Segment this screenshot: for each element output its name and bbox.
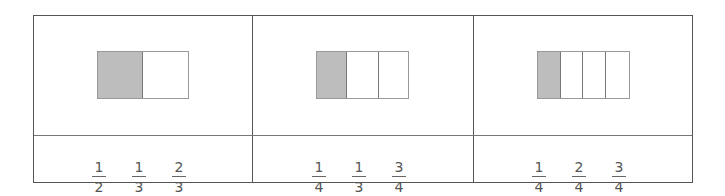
bar-segment (561, 52, 584, 98)
denominator: 4 (615, 180, 624, 194)
fraction-bar-thirds (316, 51, 409, 99)
fraction-option[interactable]: 1 4 (531, 160, 547, 194)
fraction-bar-quarters (537, 51, 630, 99)
numerator: 1 (315, 160, 324, 174)
fraction-line (312, 176, 326, 177)
fraction-options-3: 1 4 2 4 3 4 (531, 160, 651, 194)
numerator: 1 (535, 160, 544, 174)
numerator: 2 (175, 160, 184, 174)
fraction-table: 1 2 1 3 2 3 1 4 1 3 3 (33, 15, 693, 183)
column-divider (473, 16, 474, 182)
fraction-bar-halves (97, 51, 189, 99)
fraction-line (532, 176, 546, 177)
fraction-options-2: 1 4 1 3 3 4 (311, 160, 431, 194)
row-divider (34, 135, 692, 136)
fraction-option[interactable]: 1 2 (91, 160, 107, 194)
fraction-option[interactable]: 3 4 (391, 160, 407, 194)
fraction-option[interactable]: 1 3 (131, 160, 147, 194)
fraction-options-1: 1 2 1 3 2 3 (91, 160, 211, 194)
bar-segment-shaded (98, 52, 143, 98)
numerator: 3 (395, 160, 404, 174)
denominator: 4 (395, 180, 404, 194)
fraction-option[interactable]: 1 4 (311, 160, 327, 194)
fraction-line (612, 176, 626, 177)
bar-segment (143, 52, 188, 98)
column-divider (252, 16, 253, 182)
numerator: 3 (615, 160, 624, 174)
fraction-option[interactable]: 1 3 (351, 160, 367, 194)
denominator: 2 (95, 180, 104, 194)
numerator: 1 (95, 160, 104, 174)
fraction-line (572, 176, 586, 177)
denominator: 3 (135, 180, 144, 194)
denominator: 3 (355, 180, 364, 194)
fraction-option[interactable]: 2 3 (171, 160, 187, 194)
denominator: 4 (535, 180, 544, 194)
bar-segment (583, 52, 606, 98)
fraction-line (92, 176, 106, 177)
fraction-line (352, 176, 366, 177)
denominator: 4 (315, 180, 324, 194)
denominator: 4 (575, 180, 584, 194)
bar-segment-shaded (538, 52, 561, 98)
bar-segment (606, 52, 629, 98)
numerator: 1 (355, 160, 364, 174)
fraction-option[interactable]: 3 4 (611, 160, 627, 194)
numerator: 2 (575, 160, 584, 174)
numerator: 1 (135, 160, 144, 174)
bar-segment-shaded (317, 52, 347, 98)
fraction-line (172, 176, 186, 177)
bar-segment (379, 52, 408, 98)
denominator: 3 (175, 180, 184, 194)
fraction-line (392, 176, 406, 177)
fraction-option[interactable]: 2 4 (571, 160, 587, 194)
bar-segment (347, 52, 378, 98)
fraction-line (132, 176, 146, 177)
